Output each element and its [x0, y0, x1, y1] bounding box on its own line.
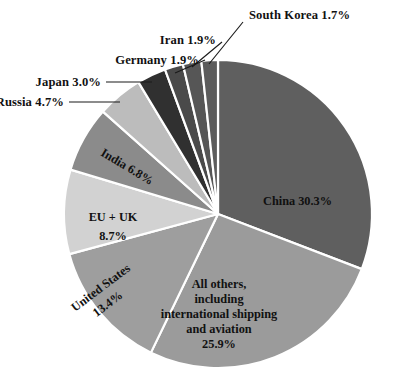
label-china: China 30.3%	[263, 194, 332, 208]
label-eu-uk-line2: 8.7%	[99, 229, 127, 243]
label-all-others-line5: 25.9%	[202, 337, 236, 351]
label-russia: Russia 4.7%	[0, 95, 64, 109]
label-japan: Japan 3.0%	[36, 75, 101, 89]
label-eu-uk-line1: EU + UK	[89, 210, 138, 224]
label-all-others-line4: and aviation	[186, 322, 251, 336]
pie-chart: South Korea 1.7% Iran 1.9% Germany 1.9% …	[0, 0, 394, 380]
label-all-others-line3: international shipping	[161, 307, 278, 321]
label-south-korea: South Korea 1.7%	[249, 8, 350, 22]
label-all-others-line1: All others,	[192, 277, 247, 291]
label-germany: Germany 1.9%	[115, 53, 199, 67]
pie-chart-svg: South Korea 1.7% Iran 1.9% Germany 1.9% …	[0, 0, 394, 380]
label-iran: Iran 1.9%	[160, 33, 216, 47]
label-all-others-line2: including	[194, 292, 244, 306]
